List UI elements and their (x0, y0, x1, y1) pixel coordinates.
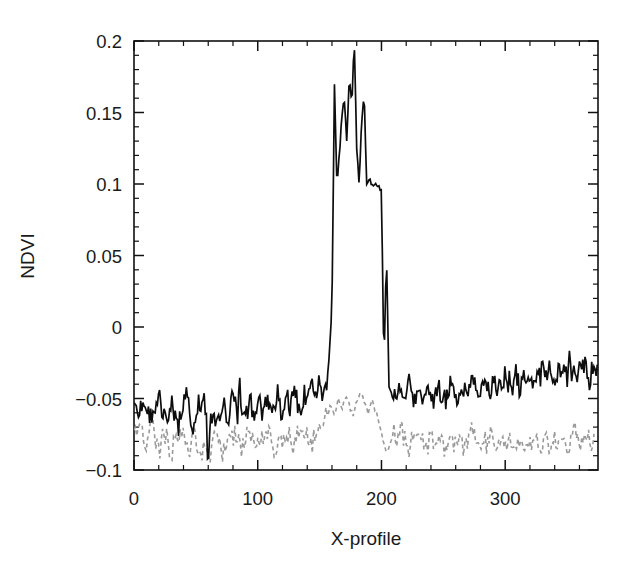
y-tick-label: 0.1 (96, 174, 122, 195)
y-tick-label: −0.05 (75, 389, 122, 410)
y-tick-label: −0.1 (85, 460, 122, 481)
ndvi-line-chart: −0.1−0.0500.050.10.150.2 0100200300 NDVI… (0, 0, 628, 573)
plot-frame (134, 41, 598, 470)
x-tick-label: 300 (490, 488, 521, 509)
x-tick-label: 200 (366, 488, 397, 509)
y-tick-label: 0.15 (86, 103, 122, 124)
y-tick-label: 0 (112, 317, 122, 338)
y-axis-tick-labels: −0.1−0.0500.050.10.150.2 (75, 31, 122, 481)
y-axis-title: NDVI (17, 233, 38, 278)
x-axis-tick-labels: 0100200300 (129, 488, 521, 509)
x-tick-label: 100 (242, 488, 273, 509)
x-axis-title: X-profile (331, 528, 402, 549)
figure-container: −0.1−0.0500.050.10.150.2 0100200300 NDVI… (0, 0, 628, 573)
x-tick-label: 0 (129, 488, 139, 509)
y-tick-label: 0.2 (96, 31, 122, 52)
y-tick-label: 0.05 (86, 246, 122, 267)
